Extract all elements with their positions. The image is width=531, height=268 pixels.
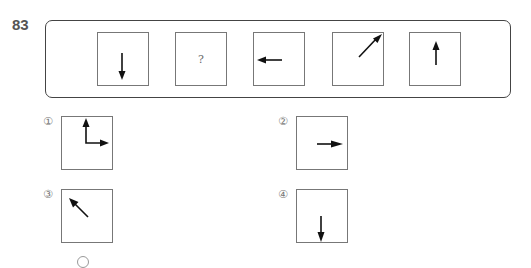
partial-circle-mark — [77, 256, 89, 268]
sequence-cell-1 — [97, 32, 149, 86]
option-3-label: ③ — [43, 188, 53, 201]
sequence-cell-5 — [409, 32, 461, 86]
sequence-cell-3 — [253, 32, 305, 86]
arrow-down-icon — [297, 190, 349, 244]
option-1-label: ① — [43, 115, 53, 128]
arrow-up-left-icon — [62, 190, 114, 244]
unknown-mark: ? — [176, 33, 226, 85]
arrow-right-icon — [297, 117, 349, 171]
option-4-label: ④ — [278, 188, 288, 201]
sequence-cell-4 — [332, 32, 384, 86]
arrows-up-and-right-icon — [62, 117, 114, 171]
arrow-up-right-icon — [333, 33, 385, 87]
option-4[interactable] — [296, 189, 348, 243]
option-1[interactable] — [61, 116, 113, 170]
question-number: 83 — [12, 16, 29, 33]
option-2-label: ② — [278, 115, 288, 128]
option-3[interactable] — [61, 189, 113, 243]
arrow-up-icon — [410, 33, 462, 87]
arrow-down-icon — [98, 33, 150, 87]
sequence-cell-2: ? — [175, 32, 227, 86]
arrow-left-icon — [254, 33, 306, 87]
option-2[interactable] — [296, 116, 348, 170]
